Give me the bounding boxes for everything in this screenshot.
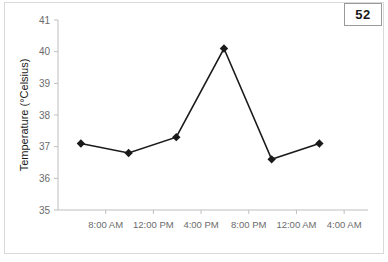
y-axis-ticks: 35363738394041: [39, 15, 58, 216]
y-axis-tick-label: 40: [39, 46, 51, 57]
y-axis-tick-label: 37: [39, 141, 51, 152]
data-point-marker: [220, 44, 228, 52]
y-axis-tick-label: 39: [39, 78, 51, 89]
y-axis-tick-label: 36: [39, 173, 51, 184]
chart-figure: 52 Temperature (°Celsius) 35363738394041…: [0, 0, 388, 262]
data-point-marker: [77, 139, 85, 147]
y-axis-title: Temperature (°Celsius): [18, 59, 30, 172]
data-point-marker: [315, 139, 323, 147]
y-axis-tick-label: 41: [39, 15, 51, 26]
y-axis-tick-label: 35: [39, 205, 51, 216]
x-axis-tick-label: 4:00 PM: [183, 219, 218, 230]
x-axis-tick-label: 12:00 AM: [276, 219, 316, 230]
data-point-marker: [124, 149, 132, 157]
y-axis-tick-label: 38: [39, 110, 51, 121]
x-axis-tick-label: 12:00 PM: [133, 219, 174, 230]
data-series-line: [81, 49, 319, 160]
x-axis-tick-label: 8:00 PM: [231, 219, 266, 230]
x-axis-ticks: 8:00 AM12:00 PM4:00 PM8:00 PM12:00 AM4:0…: [88, 210, 361, 230]
page-number-badge: 52: [344, 3, 382, 26]
data-point-marker: [267, 155, 275, 163]
line-chart-plot: Temperature (°Celsius) 35363738394041 8:…: [0, 0, 388, 262]
data-point-markers: [77, 44, 324, 163]
data-point-marker: [172, 133, 180, 141]
x-axis-tick-label: 8:00 AM: [88, 219, 123, 230]
x-axis-tick-label: 4:00 AM: [327, 219, 362, 230]
